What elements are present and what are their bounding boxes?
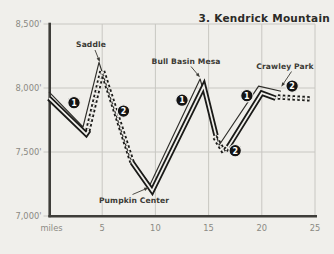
x-tick-label: 25 bbox=[310, 223, 321, 233]
chart-title: 3. Kendrick Mountain bbox=[199, 12, 330, 24]
elevation-profile-chart: 8,500'8,000'7,500'7,000'510152025miles S… bbox=[0, 0, 334, 254]
feature-label: Bull Basin Mesa bbox=[152, 57, 221, 66]
x-tick-label: 20 bbox=[257, 223, 268, 233]
y-tick-label: 7,500' bbox=[15, 147, 41, 157]
x-tick-label: 5 bbox=[100, 223, 105, 233]
trail-badge-number: 1 bbox=[179, 96, 185, 105]
x-tick-label: 15 bbox=[203, 223, 214, 233]
trail-1-band-gap bbox=[132, 86, 216, 191]
x-axis-caption: miles bbox=[40, 223, 62, 233]
feature-label: Pumpkin Center bbox=[99, 196, 169, 205]
feature-label: Saddle bbox=[76, 40, 106, 49]
feature-pointer-arrowhead bbox=[97, 57, 100, 62]
trail-badge-number: 1 bbox=[71, 99, 77, 108]
y-tick-label: 8,500' bbox=[15, 19, 41, 29]
trail-badge-number: 1 bbox=[244, 92, 250, 101]
trail-badge-number: 2 bbox=[289, 82, 295, 91]
feature-pointer-arrowhead bbox=[281, 82, 285, 87]
y-tick-label: 8,000' bbox=[15, 83, 41, 93]
annotation-layer: SaddleBull Basin MesaCrawley ParkPumpkin… bbox=[76, 40, 314, 205]
y-tick-label: 7,000' bbox=[15, 211, 41, 221]
trail-1-band bbox=[132, 86, 216, 191]
feature-pointer-line bbox=[133, 189, 147, 195]
trail-badge-number: 2 bbox=[121, 107, 127, 116]
feature-label: Crawley Park bbox=[256, 62, 314, 71]
x-tick-label: 10 bbox=[150, 223, 161, 233]
chart-canvas: 8,500'8,000'7,500'7,000'510152025miles S… bbox=[0, 0, 334, 254]
trail-badge-number: 2 bbox=[232, 147, 238, 156]
